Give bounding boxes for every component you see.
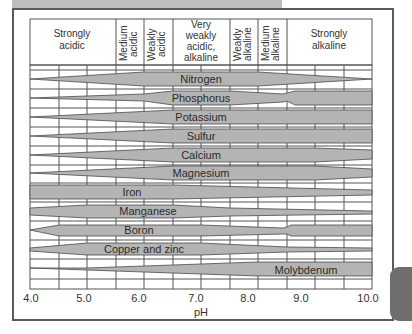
header-weakly-acidic-2: acidic	[156, 31, 167, 57]
tick-7: 7.0	[188, 292, 203, 304]
header-very-weakly-4: alkaline	[184, 52, 218, 63]
label-copper-zinc: Copper and zinc	[104, 243, 185, 255]
tick-9: 9.0	[293, 292, 308, 304]
header-strongly-alkaline-1: Strongly	[311, 28, 348, 39]
header-medium-acidic-2: acidic	[128, 31, 139, 57]
tick-5: 5.0	[76, 292, 91, 304]
label-potassium: Potassium	[175, 111, 226, 123]
label-boron: Boron	[124, 224, 153, 236]
header-strongly-alkaline-2: alkaline	[312, 40, 346, 51]
header-very-weakly-1: Very	[191, 19, 211, 30]
header-very-weakly-3: acidic,	[187, 41, 215, 52]
header-strongly-acidic: Strongly	[54, 28, 91, 39]
label-molybdenum: Molybdenum	[275, 264, 338, 276]
band-copper-zinc	[30, 243, 372, 255]
label-sulfur: Sulfur	[187, 130, 216, 142]
header-weakly-alkaline: Weakly alkaline	[232, 27, 253, 61]
tick-4: 4.0	[23, 292, 38, 304]
header-strongly-acidic-2: acidic	[59, 40, 85, 51]
x-axis-label: pH	[194, 306, 208, 318]
header-labels: Strongly acidic Medium acidic Weakly aci…	[54, 19, 348, 63]
x-axis: 4.0 5.0 6.0 7.0 8.0 9.0 10.0 pH	[23, 292, 378, 318]
header-weakly-alkaline-2: alkaline	[242, 27, 253, 61]
label-phosphorus: Phosphorus	[172, 92, 231, 104]
header-very-weakly-2: weakly	[185, 30, 217, 41]
label-manganese: Manganese	[119, 205, 177, 217]
header-medium-alkaline-2: alkaline	[270, 27, 281, 61]
header-weakly-acidic: Weakly acidic	[146, 28, 167, 61]
label-magnesium: Magnesium	[173, 167, 230, 179]
band-boron	[30, 225, 372, 236]
tick-6: 6.0	[131, 292, 146, 304]
band-iron	[30, 185, 372, 199]
label-iron: Iron	[123, 186, 142, 198]
header-medium-acidic: Medium acidic	[118, 25, 139, 61]
label-nitrogen: Nitrogen	[180, 73, 222, 85]
label-calcium: Calcium	[181, 149, 221, 161]
tick-10: 10.0	[357, 292, 378, 304]
tick-8: 8.0	[240, 292, 255, 304]
band-manganese	[30, 205, 372, 218]
header-medium-alkaline: Medium alkaline	[260, 25, 281, 61]
